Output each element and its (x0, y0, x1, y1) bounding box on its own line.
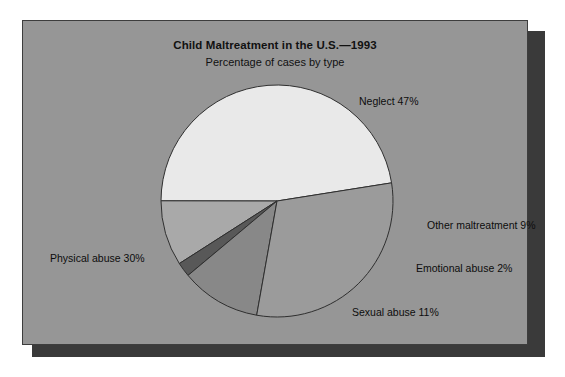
pie-label-other-maltreatment: Other maltreatment 9% (427, 220, 536, 232)
pie-label-physical-abuse: Physical abuse 30% (50, 253, 145, 265)
pie-slice-physical-abuse (257, 183, 393, 317)
pie-label-sexual-abuse: Sexual abuse 11% (352, 307, 439, 319)
pie-slice-group (161, 85, 393, 317)
figure-root: Child Maltreatment in the U.S.—1993 Perc… (0, 0, 565, 377)
pie-slice-neglect (161, 85, 392, 201)
chart-panel: Child Maltreatment in the U.S.—1993 Perc… (22, 20, 528, 345)
chart-panel-inner: Child Maltreatment in the U.S.—1993 Perc… (23, 21, 527, 344)
pie-label-emotional-abuse: Emotional abuse 2% (416, 263, 512, 275)
pie-label-neglect: Neglect 47% (359, 96, 419, 108)
pie-chart-graphic (23, 21, 529, 346)
